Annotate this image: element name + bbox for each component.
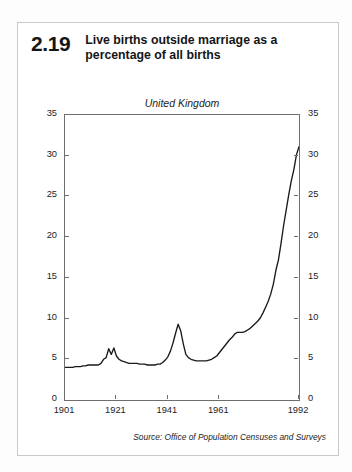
figure-card: 2.19 Live births outside marriage as a p… bbox=[17, 22, 339, 456]
y-axis-tick-mark bbox=[65, 195, 69, 196]
y-axis-tick-label-right: 20 bbox=[308, 231, 348, 240]
y-axis-tick-mark bbox=[65, 236, 69, 237]
y-axis-tick-label-left: 10 bbox=[17, 313, 57, 322]
y-axis-tick-mark bbox=[65, 155, 69, 156]
y-axis-tick-label-left: 25 bbox=[17, 190, 57, 199]
y-axis-tick-label-right: 15 bbox=[308, 272, 348, 281]
y-axis-tick-label-right: 35 bbox=[308, 109, 348, 118]
x-axis-tick-label: 1921 bbox=[93, 406, 137, 415]
x-axis-tick-mark bbox=[64, 395, 65, 399]
x-axis-tick-label: 1901 bbox=[42, 406, 86, 415]
y-axis-tick-label-left: 30 bbox=[17, 150, 57, 159]
y-axis-tick-label-right: 0 bbox=[308, 394, 348, 403]
x-axis-tick-label: 1961 bbox=[196, 406, 240, 415]
y-axis-tick-mark bbox=[65, 358, 69, 359]
x-axis-tick-mark bbox=[298, 395, 299, 399]
plot-frame bbox=[64, 114, 300, 401]
y-axis-tick-label-left: 15 bbox=[17, 272, 57, 281]
y-axis-tick-label-left: 20 bbox=[17, 231, 57, 240]
y-axis-tick-label-right: 10 bbox=[308, 313, 348, 322]
x-axis-tick-mark bbox=[218, 395, 219, 399]
page-background: 2.19 Live births outside marriage as a p… bbox=[0, 0, 352, 472]
y-axis-tick-label-right: 30 bbox=[308, 150, 348, 159]
y-axis-tick-label-right: 25 bbox=[308, 190, 348, 199]
source-note: Source: Office of Population Censuses an… bbox=[18, 432, 326, 442]
y-axis-tick-mark bbox=[65, 318, 69, 319]
y-axis-tick-label-right: 5 bbox=[308, 353, 348, 362]
y-axis-tick-mark bbox=[294, 236, 298, 237]
x-axis-tick-label: 1941 bbox=[145, 406, 189, 415]
line-chart: United Kingdom Percentages Source: Offic… bbox=[18, 23, 340, 457]
y-axis-tick-mark bbox=[294, 155, 298, 156]
y-axis-tick-mark bbox=[294, 358, 298, 359]
y-axis-tick-mark bbox=[65, 277, 69, 278]
series-line-live-births-outside-marriage bbox=[65, 147, 299, 368]
x-axis-tick-label: 1992 bbox=[276, 406, 320, 415]
y-axis-tick-mark bbox=[294, 277, 298, 278]
x-axis-tick-mark bbox=[167, 395, 168, 399]
y-axis-tick-label-left: 5 bbox=[17, 353, 57, 362]
y-axis-tick-mark bbox=[294, 195, 298, 196]
y-axis-tick-label-left: 35 bbox=[17, 109, 57, 118]
plot-canvas bbox=[65, 115, 299, 400]
x-axis-tick-mark bbox=[115, 395, 116, 399]
y-axis-tick-mark bbox=[294, 318, 298, 319]
y-axis-tick-label-left: 0 bbox=[17, 394, 57, 403]
chart-subtitle-country: United Kingdom bbox=[64, 97, 300, 109]
